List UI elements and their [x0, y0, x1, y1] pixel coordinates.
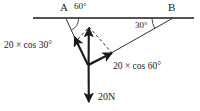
angle-label-A: 60°: [74, 2, 87, 11]
angle-arc-B: [152, 19, 155, 29]
dashed-parallel-to-B-side: [89, 27, 112, 53]
point-label-A: A: [60, 2, 68, 13]
dashed-parallel-to-AB-side: [78, 27, 89, 39]
angle-arc-A: [72, 19, 79, 30]
vector-toward-B: [88, 53, 112, 65]
weight-label: 20N: [98, 92, 115, 102]
force-vector-diagram: A 60° B 30° 20 × cos 30° 20 × cos 60° 20…: [0, 0, 200, 111]
point-label-B: B: [168, 2, 175, 13]
component-label-left: 20 × cos 30°: [4, 41, 52, 51]
angle-label-B: 30°: [135, 21, 148, 30]
vector-toward-A: [75, 37, 89, 65]
component-label-right: 20 × cos 60°: [113, 62, 161, 72]
